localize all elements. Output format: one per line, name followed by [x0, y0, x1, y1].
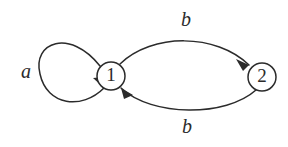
automaton-canvas: a b b 1 2: [0, 0, 288, 147]
automaton-diagram: a b b 1 2: [0, 0, 288, 147]
edge-state1-to-state2-top: [120, 41, 249, 65]
arrowhead-into-state-1-from-below: [121, 88, 133, 99]
state-node-1-label: 1: [106, 64, 116, 85]
edge-label-b-bottom: b: [182, 115, 192, 137]
edge-state2-to-state1-bottom: [121, 88, 256, 110]
edge-label-b-top: b: [181, 8, 191, 30]
edge-label-a: a: [21, 60, 31, 82]
self-loop-edge-a: [39, 43, 104, 102]
arrowhead-into-state-2: [236, 59, 249, 71]
state-node-2-label: 2: [257, 65, 267, 86]
